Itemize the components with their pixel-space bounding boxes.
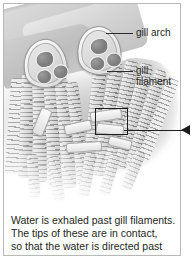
- caption-line-1: Water is exhaled past gill filaments.: [11, 214, 177, 227]
- arch-lumen: [89, 55, 106, 72]
- arch-inner-wall: [24, 40, 67, 87]
- arch-lumen: [35, 68, 53, 86]
- arch-inner-wall: [79, 28, 119, 73]
- gill-arch-leader-line: [106, 33, 133, 34]
- figure-caption: Water is exhaled past gill filaments. Th…: [11, 214, 177, 252]
- magnification-arrow-icon: [181, 125, 190, 135]
- caption-line-3: so that the water is directed past: [11, 240, 177, 253]
- bottom-fade-mask: [4, 144, 180, 209]
- gill-arch-label: gill arch: [136, 27, 170, 39]
- arch-lumen: [34, 49, 56, 69]
- gill-filament-label-line2: filament: [136, 76, 171, 88]
- magnification-pointer-line: [124, 130, 184, 131]
- arch-lumen: [89, 37, 110, 56]
- gill-filament-label-line1: gill: [136, 65, 148, 77]
- caption-line-2: The tips of these are in contact,: [11, 227, 177, 240]
- gill-filament-leader-line: [107, 71, 133, 72]
- figure-panel: gill arch gill filament Water is exhaled…: [0, 0, 196, 260]
